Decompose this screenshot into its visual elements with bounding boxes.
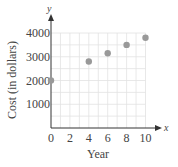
data-point: [48, 77, 54, 83]
y-tick-label: 2000: [26, 74, 50, 88]
x-axis-letter: x: [163, 122, 169, 133]
data-point: [123, 42, 129, 48]
y-tick-labels: 1000200030004000: [26, 26, 50, 111]
scatter-chart: 0246810 1000200030004000 x y Year Cost (…: [0, 0, 178, 167]
data-point: [105, 50, 111, 56]
y-tick-label: 1000: [26, 97, 50, 111]
grid-lines: [51, 33, 146, 128]
x-tick-labels: 0246810: [48, 131, 152, 145]
y-axis-letter: y: [46, 3, 52, 14]
data-point: [142, 35, 148, 41]
x-tick-label: 0: [48, 131, 54, 145]
y-tick-label: 4000: [26, 26, 50, 40]
x-tick-label: 8: [124, 131, 130, 145]
x-tick-label: 6: [105, 131, 111, 145]
x-axis-arrow-icon: [155, 125, 162, 131]
x-axis-label: Year: [87, 147, 109, 161]
x-tick-label: 4: [86, 131, 92, 145]
data-point: [86, 58, 92, 64]
x-tick-label: 2: [67, 131, 73, 145]
y-axis-arrow-icon: [48, 14, 54, 21]
x-tick-label: 10: [140, 131, 152, 145]
y-axis-label: Cost (in dollars): [5, 41, 19, 119]
y-tick-label: 3000: [26, 50, 50, 64]
axes: [48, 14, 162, 131]
